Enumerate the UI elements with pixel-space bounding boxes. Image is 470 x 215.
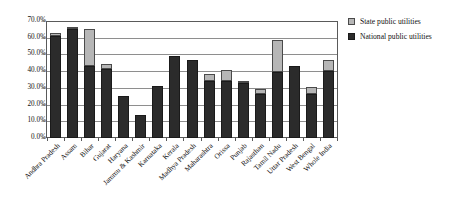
legend-item-national: National public utilities bbox=[348, 29, 432, 44]
y-tick-mark bbox=[42, 37, 45, 38]
x-tick-mark bbox=[235, 138, 236, 141]
bar-segment-national bbox=[50, 36, 61, 138]
bar-group bbox=[238, 82, 249, 138]
x-tick-mark bbox=[269, 138, 270, 141]
bar-group bbox=[84, 29, 95, 138]
bar-group bbox=[306, 87, 317, 138]
bar-segment-national bbox=[101, 69, 112, 138]
bar-group bbox=[118, 96, 129, 138]
bar-segment-state bbox=[50, 33, 61, 35]
bar-group bbox=[204, 74, 215, 138]
bar-segment-state bbox=[255, 89, 266, 93]
y-tick-mark bbox=[42, 87, 45, 88]
bar-chart: 0.0%10.0%20.0%30.0%40.0%50.0%60.0%70.0% … bbox=[0, 0, 470, 215]
bar-group bbox=[187, 60, 198, 138]
x-tick-mark bbox=[166, 138, 167, 141]
chart-legend: State public utilities National public u… bbox=[348, 14, 432, 44]
bar-segment-national bbox=[306, 94, 317, 138]
y-tick-mark bbox=[42, 54, 45, 55]
bar-segment-national bbox=[169, 56, 180, 138]
x-tick-mark bbox=[98, 138, 99, 141]
bar-segment-state bbox=[101, 64, 112, 70]
legend-label-national: National public utilities bbox=[360, 32, 432, 41]
x-tick-mark bbox=[64, 138, 65, 141]
bar-group bbox=[50, 33, 61, 138]
x-axis: Andhra PradeshAssamBiharGujaratHaryanaJa… bbox=[0, 138, 470, 215]
bar-segment-national bbox=[204, 81, 215, 138]
x-tick-mark bbox=[149, 138, 150, 141]
y-tick-label: 30.0% bbox=[4, 84, 46, 91]
y-tick-mark bbox=[42, 71, 45, 72]
bar-segment-state bbox=[306, 87, 317, 94]
x-tick-mark bbox=[320, 138, 321, 141]
bar-group bbox=[169, 56, 180, 138]
bar-group bbox=[323, 60, 334, 138]
bars-layer bbox=[47, 22, 337, 138]
bar-segment-national bbox=[272, 72, 283, 138]
y-tick-mark bbox=[42, 21, 45, 22]
bar-segment-national bbox=[84, 66, 95, 138]
bar-group bbox=[135, 115, 146, 138]
state-swatch-icon bbox=[348, 18, 355, 25]
bar-group bbox=[255, 89, 266, 138]
bar-segment-national bbox=[255, 94, 266, 138]
x-tick-mark bbox=[183, 138, 184, 141]
bar-segment-national bbox=[238, 83, 249, 138]
y-tick-label: 20.0% bbox=[4, 101, 46, 108]
bar-segment-national bbox=[135, 115, 146, 138]
bar-group bbox=[152, 86, 163, 138]
bar-segment-national bbox=[118, 96, 129, 138]
x-tick-mark bbox=[252, 138, 253, 141]
x-tick-mark bbox=[47, 138, 48, 141]
x-tick-label: Orissa bbox=[213, 142, 231, 160]
x-tick-label: Andhra Pradesh bbox=[22, 142, 60, 180]
x-tick-mark bbox=[303, 138, 304, 141]
bar-segment-state bbox=[238, 81, 249, 83]
bar-segment-state bbox=[67, 27, 78, 29]
bar-segment-state bbox=[204, 74, 215, 81]
bar-segment-national bbox=[187, 60, 198, 138]
bar-segment-state bbox=[221, 70, 232, 81]
bar-group bbox=[67, 28, 78, 138]
bar-segment-state bbox=[84, 29, 95, 67]
bar-segment-national bbox=[289, 66, 300, 138]
x-tick-mark bbox=[132, 138, 133, 141]
y-tick-label: 50.0% bbox=[4, 51, 46, 58]
legend-item-state: State public utilities bbox=[348, 14, 432, 29]
x-tick-label: Assam bbox=[59, 142, 78, 161]
x-tick-mark bbox=[286, 138, 287, 141]
national-swatch-icon bbox=[348, 33, 355, 40]
bar-group bbox=[101, 64, 112, 138]
x-tick-mark bbox=[337, 138, 338, 141]
y-tick-mark bbox=[42, 104, 45, 105]
x-tick-mark bbox=[115, 138, 116, 141]
x-tick-mark bbox=[81, 138, 82, 141]
bar-segment-national bbox=[152, 86, 163, 138]
x-tick-mark bbox=[201, 138, 202, 141]
y-tick-label: 40.0% bbox=[4, 68, 46, 75]
bar-group bbox=[289, 66, 300, 138]
y-tick-label: 10.0% bbox=[4, 118, 46, 125]
bar-segment-national bbox=[221, 81, 232, 138]
bar-group bbox=[221, 70, 232, 138]
y-tick-label: 70.0% bbox=[4, 17, 46, 24]
bar-segment-state bbox=[272, 40, 283, 72]
bar-segment-national bbox=[323, 71, 334, 138]
y-tick-label: 60.0% bbox=[4, 34, 46, 41]
y-tick-mark bbox=[42, 121, 45, 122]
x-tick-mark bbox=[218, 138, 219, 141]
bar-segment-national bbox=[67, 29, 78, 138]
legend-label-state: State public utilities bbox=[360, 17, 421, 26]
bar-segment-state bbox=[323, 60, 334, 71]
bar-group bbox=[272, 40, 283, 138]
